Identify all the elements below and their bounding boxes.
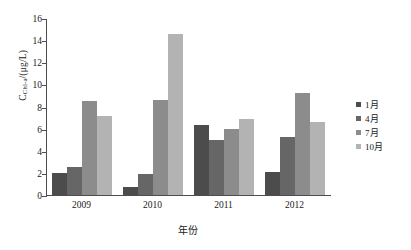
bar-2009-10月[interactable] — [97, 116, 112, 195]
y-tick-mark — [42, 196, 46, 197]
y-tick-label: 0 — [37, 191, 42, 201]
bar-2010-7月[interactable] — [153, 100, 168, 195]
y-tick-label: 6 — [37, 125, 42, 135]
y-tick-label: 8 — [37, 103, 42, 113]
y-axis-title-subscript: Chl-a — [21, 78, 28, 94]
y-tick-label: 2 — [37, 169, 42, 179]
x-tick-label: 2012 — [259, 200, 330, 210]
x-tick-label: 2010 — [117, 200, 188, 210]
bar-2012-1月[interactable] — [265, 172, 280, 195]
y-tick-label: 12 — [33, 58, 43, 68]
x-tick-label: 2009 — [46, 200, 117, 210]
legend-label: 4月 — [365, 112, 379, 125]
bar-2010-4月[interactable] — [138, 174, 153, 195]
x-axis-line — [46, 195, 331, 196]
bar-2012-7月[interactable] — [295, 93, 310, 195]
legend-swatch-icon — [356, 116, 361, 121]
chart-legend: 1月4月7月10月 — [356, 98, 383, 154]
bar-2011-10月[interactable] — [239, 119, 254, 195]
y-axis-title-unit: /(μg/L) — [18, 50, 28, 79]
legend-item-10月[interactable]: 10月 — [356, 140, 383, 153]
legend-swatch-icon — [356, 130, 361, 135]
legend-item-7月[interactable]: 7月 — [356, 126, 383, 139]
bar-group-2012: 2012 — [259, 18, 330, 195]
bar-2010-10月[interactable] — [168, 34, 183, 196]
y-axis-title: CChl-a/(μg/L) — [18, 10, 29, 140]
legend-swatch-icon — [356, 144, 361, 149]
legend-item-1月[interactable]: 1月 — [356, 98, 383, 111]
bar-2012-4月[interactable] — [280, 137, 295, 195]
bar-2010-1月[interactable] — [123, 187, 138, 195]
y-tick-label: 16 — [33, 14, 43, 24]
legend-label: 10月 — [365, 140, 383, 153]
legend-label: 1月 — [365, 98, 379, 111]
legend-item-4月[interactable]: 4月 — [356, 112, 383, 125]
y-tick-label: 4 — [37, 147, 42, 157]
bar-group-2011: 2011 — [188, 18, 259, 195]
x-axis-title: 年份 — [46, 222, 330, 237]
bar-2011-7月[interactable] — [224, 129, 239, 195]
bar-2011-1月[interactable] — [194, 125, 209, 195]
chart-figure: CChl-a/(μg/L) 0246810121416 200920102011… — [0, 0, 411, 250]
bar-2012-10月[interactable] — [310, 122, 325, 195]
legend-swatch-icon — [356, 102, 361, 107]
bar-2009-4月[interactable] — [67, 167, 82, 195]
x-tick-label: 2011 — [188, 200, 259, 210]
bar-group-2009: 2009 — [46, 18, 117, 195]
bar-group-2010: 2010 — [117, 18, 188, 195]
plot-area: 0246810121416 2009201020112012 — [46, 19, 330, 196]
y-tick-label: 10 — [33, 80, 43, 90]
bar-2009-1月[interactable] — [52, 173, 67, 195]
legend-label: 7月 — [365, 126, 379, 139]
y-axis-title-symbol: C — [18, 94, 28, 101]
bar-2009-7月[interactable] — [82, 101, 97, 195]
bar-2011-4月[interactable] — [209, 140, 224, 195]
y-tick-label: 14 — [33, 36, 43, 46]
